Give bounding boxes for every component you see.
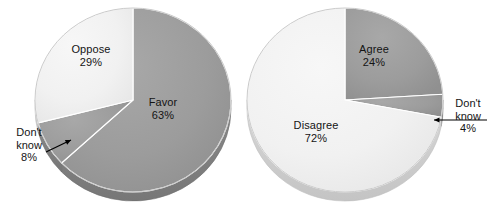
right-slice-label-dont-know: Don't know 4% [455,97,481,135]
pie-charts-figure: Favor 63% Oppose 29% Don't know 8% Agree… [0,0,498,222]
slice-name-line1: Don't [455,97,481,110]
pie-charts-svg [0,0,498,222]
slice-name-line2: know [16,139,42,152]
slice-name-line1: Don't [16,126,42,139]
slice-name-line2: know [455,110,481,123]
right-pie-chart [247,8,443,201]
left-pie-chart [35,8,231,201]
slice-value: 8% [16,151,42,164]
pie-slice-agree[interactable] [345,8,443,100]
left-slice-label-dont-know: Don't know 8% [16,126,42,164]
slice-value: 4% [455,122,481,135]
